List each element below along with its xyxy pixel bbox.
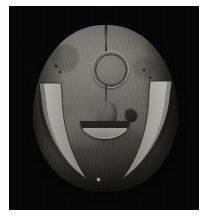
surface-pit <box>143 69 145 71</box>
photo-plate <box>9 6 199 210</box>
right-tusk <box>110 79 180 189</box>
upper-center-ridge <box>105 27 107 53</box>
surface-pit <box>149 77 151 79</box>
photograph-page <box>0 0 205 223</box>
bottom-nail <box>97 178 100 181</box>
left-tusk <box>31 81 101 189</box>
surface-pit <box>55 65 57 67</box>
surface-pit <box>59 71 61 73</box>
mask-figure <box>33 25 178 191</box>
